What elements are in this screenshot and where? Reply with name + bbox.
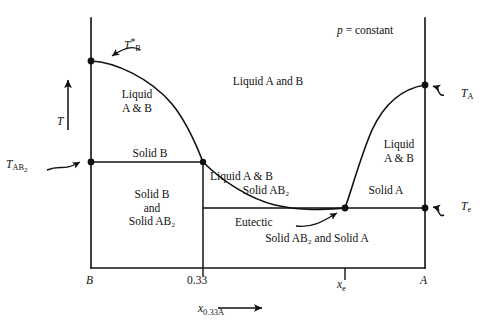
annotation-eutectic: Eutectic [235, 216, 273, 230]
region-solid-a: Solid A [356, 184, 416, 198]
x-tick-label-033: 0.33 [187, 274, 207, 288]
dot-TA [422, 82, 429, 89]
region-liquid-ab-left-line2: A & B [106, 102, 168, 116]
pressure-condition-note: p = constant [337, 24, 393, 38]
y-axis-label: T [57, 115, 63, 129]
region-solid-b: Solid B [117, 147, 183, 161]
leader-TA [433, 86, 444, 95]
region-liquid-ab-solid-ab2-line1: Liquid A & B [210, 170, 322, 184]
label-Te: Te [461, 200, 471, 215]
x-tick-label-A: A [420, 274, 427, 288]
region-liquid-ab-right-line1: Liquid [372, 138, 426, 152]
region-liquid-ab-right: Liquid A & B [372, 138, 426, 165]
region-liquid-ab-right-line2: A & B [372, 152, 426, 166]
region-liquid-ab-left-line1: Liquid [106, 88, 168, 102]
region-solid-b-and-solid-ab2-line2: and [104, 202, 200, 216]
x-axis-label: x0.33A [198, 302, 224, 317]
x-tick-label-B: B [86, 274, 93, 288]
label-TAB2: TAB2 [6, 158, 28, 174]
dot-Te [422, 205, 429, 212]
region-solid-b-and-solid-ab2: Solid B and Solid AB₂ [104, 188, 200, 229]
region-solid-b-and-solid-ab2-line1: Solid B [104, 188, 200, 202]
region-solid-b-and-solid-ab2-line3: Solid AB₂ [104, 215, 200, 229]
leader-TAB2 [47, 162, 80, 170]
dot-TAB2 [88, 159, 95, 166]
phase-diagram-figure: p = constant T x0.33A T*B TA TAB2 Te Liq… [0, 0, 502, 326]
x-axis-label-sub: 0.33 [203, 307, 218, 317]
label-TA: TA [461, 87, 473, 102]
region-liquid-ab-solid-ab2: Liquid A & B Solid AB₂ [210, 170, 322, 197]
region-liquid-a-and-b-top: Liquid A and B [209, 75, 327, 89]
dot-congruent-melt [200, 159, 206, 165]
label-TB-star: T*B [124, 36, 141, 54]
region-solid-ab2-and-solid-a: Solid AB₂ and Solid A [222, 232, 412, 246]
dot-TB-star [88, 58, 95, 65]
dot-eutectic [342, 205, 349, 212]
leader-Te [433, 207, 444, 216]
leader-eutectic [296, 213, 337, 226]
x-tick-label-xe: xe [337, 278, 346, 293]
region-liquid-ab-left: Liquid A & B [106, 88, 168, 115]
region-liquid-ab-solid-ab2-line2: Solid AB₂ [210, 184, 322, 198]
